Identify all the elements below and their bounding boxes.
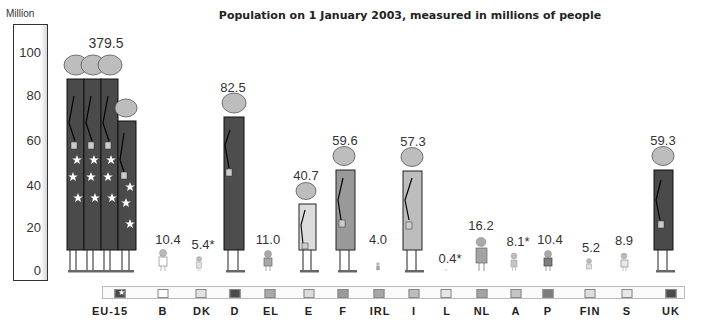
legend-label-i: I	[412, 305, 416, 317]
legend-swatch-irl	[374, 289, 385, 298]
value-label-p: 10.4	[537, 232, 562, 247]
value-label-eu15: 379.5	[88, 35, 123, 51]
legend-label-eu15: EU-15	[92, 305, 128, 317]
legend-swatch-a	[511, 289, 522, 298]
figure-b	[159, 250, 167, 272]
legend-label-b: B	[159, 305, 168, 317]
value-label-irl: 4.0	[369, 232, 387, 247]
legend-swatch-dk	[196, 289, 207, 298]
figure-fin	[587, 259, 592, 270]
legend-swatch-fin	[585, 289, 596, 298]
legend-strip	[102, 286, 685, 299]
figure-p	[544, 251, 552, 272]
value-label-fin: 5.2	[582, 240, 600, 255]
figure-a	[511, 253, 517, 271]
legend-label-el: EL	[263, 305, 279, 317]
legend-swatch-d	[230, 289, 241, 298]
legend-swatch-nl	[477, 289, 488, 298]
figure-el	[264, 251, 272, 272]
figure-dk	[197, 257, 202, 272]
legend-swatch-eu15: ★	[115, 289, 126, 298]
legend-swatch-f	[338, 289, 349, 298]
value-label-el: 11.0	[256, 232, 280, 247]
value-label-b: 10.4	[155, 232, 180, 247]
legend-swatch-el	[265, 289, 276, 298]
star-icon: ★	[118, 288, 125, 297]
value-label-l: 0.4*	[438, 251, 461, 266]
legend-label-dk: DK	[193, 305, 211, 317]
legend-label-a: A	[512, 305, 521, 317]
legend-label-e: E	[305, 305, 313, 317]
legend-label-fin: FIN	[580, 305, 601, 317]
legend-swatch-uk	[666, 289, 677, 298]
value-label-d: 82.5	[220, 80, 245, 95]
figure-l	[445, 269, 447, 271]
figure-s	[621, 253, 628, 271]
figure-eu15	[64, 55, 137, 273]
figure-d	[222, 93, 246, 273]
legend-label-f: F	[339, 305, 347, 317]
figure-f	[333, 147, 357, 273]
legend-swatch-s	[622, 289, 633, 298]
figure-uk	[652, 147, 675, 273]
legend-swatch-i	[409, 289, 420, 298]
value-label-i: 57.3	[400, 134, 425, 149]
legend-swatch-b	[158, 289, 169, 298]
legend-label-l: L	[443, 305, 451, 317]
value-label-f: 59.6	[332, 133, 357, 148]
figure-irl	[376, 262, 380, 270]
figure-i	[401, 148, 424, 273]
legend-label-uk: UK	[662, 305, 680, 317]
legend-label-irl: IRL	[370, 305, 391, 317]
value-label-s: 8.9	[615, 233, 633, 248]
legend-label-p: P	[544, 305, 552, 317]
legend-swatch-l	[441, 289, 452, 298]
legend-label-nl: NL	[474, 305, 491, 317]
legend-label-d: D	[231, 305, 240, 317]
value-label-a: 8.1*	[506, 234, 529, 249]
legend-label-s: S	[623, 305, 631, 317]
figure-nl	[476, 238, 487, 272]
value-label-e: 40.7	[293, 168, 318, 183]
value-label-nl: 16.2	[468, 218, 493, 233]
figure-e	[296, 183, 319, 273]
value-label-dk: 5.4*	[191, 237, 214, 252]
legend-swatch-e	[304, 289, 315, 298]
value-label-uk: 59.3	[650, 133, 675, 148]
legend-swatch-p	[543, 289, 554, 298]
